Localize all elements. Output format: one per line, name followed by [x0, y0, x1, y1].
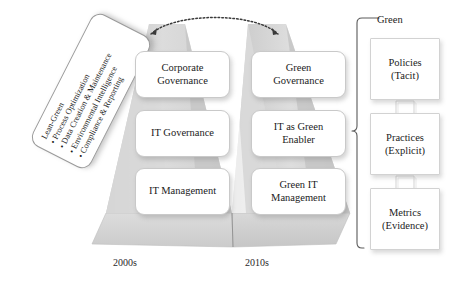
floor-slab-right [232, 213, 350, 247]
floor-slab-left [92, 213, 233, 247]
card-it-as-green-enabler: IT as Green Enabler [251, 110, 346, 157]
card-green-it-management-line-1: Green IT [271, 179, 326, 191]
card-green-governance-line-1: Green [273, 62, 324, 74]
sqcard-metrics-subtitle: (Evidence) [382, 219, 428, 232]
card-it-as-green-enabler-line-2: Enabler [274, 134, 323, 146]
sqcard-practices: Practices (Explicit) [370, 113, 440, 175]
era-label-2010s: 2010s [245, 257, 269, 268]
sqcard-policies-subtitle: (Tacit) [391, 69, 419, 82]
sqcard-policies: Policies (Tacit) [370, 38, 440, 100]
card-it-governance: IT Governance [135, 110, 230, 157]
card-green-it-management: Green IT Management [251, 168, 346, 215]
diagram-canvas: Lean-Green • Process Optimization • Data… [0, 0, 460, 291]
card-green-governance-line-2: Governance [273, 75, 324, 87]
green-bracket-label: Green [377, 14, 403, 25]
sqcard-practices-subtitle: (Explicit) [385, 144, 425, 157]
card-corporate-governance-line-1: Corporate [157, 62, 208, 74]
sqcard-policies-title: Policies [388, 56, 421, 69]
sqcard-practices-title: Practices [386, 131, 424, 144]
card-green-governance: Green Governance [251, 51, 346, 98]
card-corporate-governance: Corporate Governance [135, 51, 230, 98]
era-label-2000s: 2000s [113, 257, 137, 268]
card-green-it-management-line-2: Management [271, 192, 326, 204]
card-it-governance-line-1: IT Governance [151, 127, 214, 139]
card-it-management: IT Management [135, 168, 230, 215]
sqcard-metrics-title: Metrics [389, 206, 421, 219]
card-it-as-green-enabler-line-1: IT as Green [274, 121, 323, 133]
sqcard-metrics: Metrics (Evidence) [370, 188, 440, 250]
card-it-management-line-1: IT Management [149, 185, 216, 197]
card-corporate-governance-line-2: Governance [157, 75, 208, 87]
